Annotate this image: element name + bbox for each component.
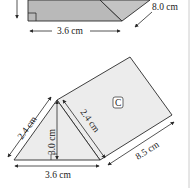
top-width-label: 3.6 cm	[57, 26, 83, 36]
length-label-bottom: 8.5 cm	[134, 139, 162, 162]
height-label: 3.0 cm	[47, 129, 57, 155]
face-label: C	[115, 98, 121, 108]
base-label: 3.6 cm	[45, 170, 71, 180]
top-prism: 3.6 cm 8.0 cm	[17, 0, 178, 36]
bottom-prism: 2.4 cm 2.4 cm 3.0 cm 3.6 cm 8.5 cm C	[8, 57, 174, 180]
diagram-canvas: 3.6 cm 8.0 cm 2.4 cm 2.4 cm 3.0 cm 3.6 c…	[0, 0, 193, 188]
top-length-label: 8.0 cm	[152, 2, 178, 12]
length-arrow	[135, 12, 152, 27]
